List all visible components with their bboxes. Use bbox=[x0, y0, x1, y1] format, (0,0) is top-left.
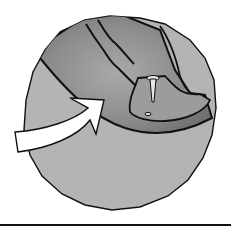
magnified-finger-illustration bbox=[0, 0, 231, 228]
divider-line bbox=[0, 224, 231, 226]
illustration bbox=[0, 0, 231, 228]
